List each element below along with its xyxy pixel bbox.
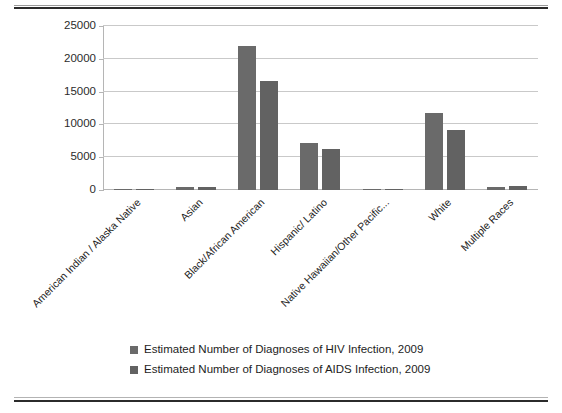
x-tick-label: Hispanic/ Latino — [268, 196, 329, 257]
bar[interactable] — [509, 186, 527, 190]
x-tick-label: Multiple Races — [458, 196, 515, 253]
y-axis-labels: 0500010000150002000025000 — [8, 26, 96, 190]
bar[interactable] — [363, 189, 381, 191]
bar[interactable] — [114, 189, 132, 191]
y-tick-label-15000: 15000 — [16, 86, 96, 98]
y-tick-label-25000: 25000 — [16, 20, 96, 32]
x-tick-label: American Indian / Alaska Native — [29, 196, 142, 309]
y-tick-label-0: 0 — [16, 184, 96, 196]
bar-group — [289, 26, 351, 190]
bar[interactable] — [322, 149, 340, 190]
x-tick-label: Native Hawaiian/Other Pacific... — [278, 196, 391, 309]
bar[interactable] — [425, 113, 443, 190]
legend-item-hiv[interactable]: Estimated Number of Diagnoses of HIV Inf… — [130, 341, 460, 358]
bar-group — [414, 26, 476, 190]
x-tick-label: White — [426, 196, 453, 223]
y-tick-label-10000: 10000 — [16, 118, 96, 130]
footer-rule — [14, 400, 548, 402]
bar[interactable] — [136, 189, 154, 191]
chart-figure: 0500010000150002000025000 American India… — [0, 0, 562, 413]
legend-label-hiv: Estimated Number of Diagnoses of HIV Inf… — [144, 343, 423, 356]
bar[interactable] — [300, 143, 318, 190]
y-tick-label-5000: 5000 — [16, 151, 96, 163]
y-tick-label-20000: 20000 — [16, 53, 96, 65]
bar[interactable] — [487, 187, 505, 190]
x-axis-labels: American Indian / Alaska NativeAsianBlac… — [103, 192, 538, 332]
chart-legend: Estimated Number of Diagnoses of HIV Inf… — [130, 341, 460, 381]
bar-group — [476, 26, 538, 190]
legend-swatch-hiv — [130, 346, 138, 354]
bar[interactable] — [385, 189, 403, 191]
legend-label-aids: Estimated Number of Diagnoses of AIDS In… — [144, 363, 430, 376]
bar-group — [352, 26, 414, 190]
bar[interactable] — [238, 46, 256, 190]
bar[interactable] — [447, 130, 465, 190]
legend-item-aids[interactable]: Estimated Number of Diagnoses of AIDS In… — [130, 361, 460, 378]
x-tick-label: Asian — [178, 196, 205, 223]
bar-group — [165, 26, 227, 190]
bar-group — [227, 26, 289, 190]
bar[interactable] — [176, 187, 194, 190]
header-rule — [14, 7, 548, 9]
plot-area — [103, 26, 538, 190]
bar[interactable] — [198, 187, 216, 190]
header-rule-thin — [14, 5, 548, 6]
legend-swatch-aids — [130, 366, 138, 374]
bar-group — [103, 26, 165, 190]
bar[interactable] — [260, 81, 278, 190]
footer-rule-thin — [14, 397, 548, 398]
